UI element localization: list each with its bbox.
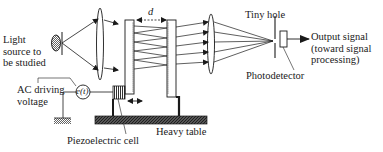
multiple-reflections: [134, 26, 167, 69]
photodetector-label: Photodetector: [246, 70, 304, 82]
output-signal-label: Output signal (toward signal processing): [311, 31, 371, 66]
tiny-hole-label: Tiny hole: [245, 9, 285, 21]
converging-rays: [214, 22, 273, 62]
fabry-perot-diagram: Light source to be studied AC driving vo…: [0, 0, 383, 152]
photodetector-leader: [283, 47, 294, 70]
ac-voltage-label: AC driving voltage: [17, 84, 65, 107]
light-source-label: Light source to be studied: [3, 34, 46, 69]
spacing-label: d: [148, 6, 153, 18]
movable-mirror: [125, 20, 134, 94]
collimating-lens: [97, 8, 104, 80]
piezo-cell-label: Piezoelectric cell: [67, 135, 139, 147]
emf-symbol: e(t): [76, 86, 89, 98]
photodetector: [280, 31, 287, 47]
focusing-lens: [208, 14, 215, 74]
source-rays: [62, 19, 98, 70]
light-source: [52, 32, 63, 55]
ground-symbol: [54, 118, 71, 124]
heavy-table-label: Heavy table: [156, 126, 206, 138]
fixed-mirror: [167, 20, 179, 118]
heavy-table: [95, 116, 207, 124]
collimated-rays: [104, 20, 118, 70]
piezoelectric-cell: [113, 86, 126, 134]
transmitted-rays: [176, 22, 208, 64]
